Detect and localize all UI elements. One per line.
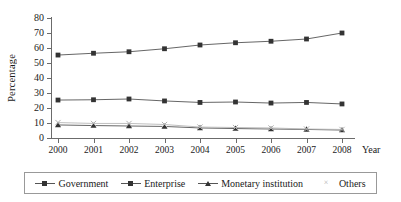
legend-label: Monetary institution — [221, 178, 303, 189]
legend-swatch-square-icon — [121, 179, 141, 188]
legend-label: Enterprise — [144, 178, 185, 189]
series-enterprise — [56, 97, 345, 107]
data-point-marker — [269, 39, 274, 44]
data-point-marker — [162, 46, 167, 51]
data-point-marker — [162, 99, 167, 104]
legend-item-government[interactable]: Government — [35, 178, 108, 189]
chart-root: Percentage 01020304050607080 20002001200… — [0, 0, 401, 202]
legend-item-others[interactable]: ×Others — [316, 178, 366, 189]
data-point-marker — [127, 49, 132, 54]
chart-legend: GovernmentEnterpriseMonetary institution… — [24, 172, 377, 194]
data-point-marker — [91, 97, 96, 102]
line-chart: Percentage 01020304050607080 20002001200… — [0, 0, 401, 168]
data-point-marker — [304, 37, 309, 42]
legend-item-enterprise[interactable]: Enterprise — [121, 178, 185, 189]
data-point-marker — [233, 100, 238, 105]
data-point-marker — [340, 102, 345, 107]
x-axis-title: Year — [362, 145, 380, 155]
legend-label: Government — [58, 178, 108, 189]
legend-swatch-triangle-icon — [198, 179, 218, 188]
data-point-marker — [127, 97, 132, 102]
data-point-marker — [56, 53, 61, 58]
series-layer — [0, 0, 401, 168]
data-point-marker — [269, 101, 274, 106]
data-point-marker — [56, 98, 61, 103]
data-point-marker — [340, 31, 345, 36]
data-point-marker — [198, 43, 203, 48]
legend-item-monetary-institution[interactable]: Monetary institution — [198, 178, 303, 189]
data-point-marker — [198, 100, 203, 105]
legend-swatch-square-icon — [35, 179, 55, 188]
data-point-marker — [91, 51, 96, 56]
legend-label: Others — [339, 178, 366, 189]
data-point-marker — [304, 100, 309, 105]
legend-swatch-cross-icon: × — [316, 179, 336, 188]
series-government — [56, 31, 345, 58]
data-point-marker — [233, 40, 238, 45]
